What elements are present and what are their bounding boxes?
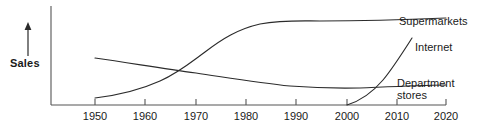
x-tick-label-1950: 1950	[83, 110, 107, 122]
series-line-department-stores	[95, 58, 446, 88]
series-label-department-stores-line1: Department	[397, 77, 454, 89]
series-label-internet: Internet	[415, 41, 452, 53]
x-tick-label-1970: 1970	[184, 110, 208, 122]
x-tick-label-1990: 1990	[284, 110, 308, 122]
sales-up-arrow-icon	[25, 22, 32, 56]
series-label-supermarkets: Supermarkets	[399, 15, 467, 27]
sales-trend-line-chart: Sales 1950 1960 1970 1980 1990 2000 2010…	[0, 0, 482, 133]
series-label-department-stores-line2: stores	[397, 89, 427, 101]
x-tick-label-1980: 1980	[234, 110, 258, 122]
x-tick-label-2020: 2020	[434, 110, 458, 122]
x-tick-label-2010: 2010	[385, 110, 409, 122]
series-line-supermarkets	[95, 18, 446, 98]
x-tick-label-1960: 1960	[133, 110, 157, 122]
y-axis-title: Sales	[10, 57, 40, 69]
x-axis-ticks	[95, 99, 446, 105]
x-tick-label-2000: 2000	[335, 110, 359, 122]
